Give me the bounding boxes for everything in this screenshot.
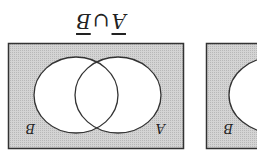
venn-diagrams: B A B [0, 0, 257, 164]
venn-panel-1: B A [9, 44, 184, 149]
label-b-2: B [223, 121, 234, 136]
venn-panel-2: B [207, 44, 258, 149]
label-a: A [156, 121, 166, 136]
label-b: B [25, 121, 36, 136]
